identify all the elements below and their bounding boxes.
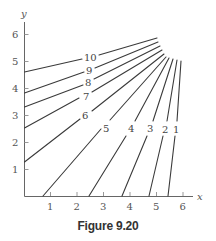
curve-label-9: 9 <box>86 65 92 76</box>
y-axis-label: y <box>20 8 27 19</box>
curve-1 <box>168 136 175 196</box>
curve-2 <box>149 136 163 196</box>
curve-9 <box>25 72 85 93</box>
y-tick-label: 3 <box>12 110 18 121</box>
x-tick-label: 4 <box>127 201 133 212</box>
curve-label-7: 7 <box>83 91 89 102</box>
curve-5 <box>43 129 101 196</box>
curve-4 <box>89 136 126 196</box>
curve-4 <box>135 58 169 121</box>
y-tick-label: 5 <box>12 56 18 67</box>
curve-label-8: 8 <box>85 77 91 88</box>
curves <box>25 38 182 196</box>
y-tick-label: 2 <box>12 137 18 148</box>
curve-3 <box>122 136 147 196</box>
x-tick-label: 1 <box>47 201 53 212</box>
x-tick-label: 6 <box>180 201 186 212</box>
curve-8 <box>94 46 160 79</box>
x-tick-label: 2 <box>74 201 80 212</box>
curve-label-10: 10 <box>84 52 97 63</box>
y-tick-label: 4 <box>12 83 18 94</box>
curve-8 <box>25 85 84 107</box>
curve-label-1: 1 <box>173 124 179 135</box>
y-tick-label: 1 <box>12 164 18 175</box>
curve-label-5: 5 <box>103 123 109 134</box>
curve-label-4: 4 <box>128 123 134 134</box>
figure-9-20-plot: y x 1 2 3 4 5 6 1 2 3 4 5 6 <box>0 0 216 241</box>
curve-7 <box>92 50 162 92</box>
curve-7 <box>25 98 80 128</box>
x-axis-label: x <box>197 191 203 202</box>
curve-label-3: 3 <box>147 123 153 134</box>
curve-label-6: 6 <box>82 110 88 121</box>
x-tick-label: 5 <box>153 201 159 212</box>
y-tick-label: 6 <box>12 29 18 40</box>
figure-caption: Figure 9.20 <box>0 219 216 233</box>
curve-label-2: 2 <box>162 124 168 135</box>
curve-9 <box>95 42 158 68</box>
x-tick-label: 3 <box>100 201 106 212</box>
curve-1 <box>177 61 181 121</box>
curve-6 <box>25 119 81 162</box>
axes <box>25 22 194 197</box>
curve-10 <box>25 59 83 72</box>
curve-2 <box>167 60 177 121</box>
